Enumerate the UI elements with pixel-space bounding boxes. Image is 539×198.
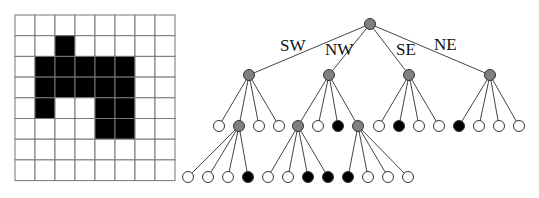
tree-edge [228,126,239,177]
tree-node-white [214,121,225,132]
label-se: SE [396,40,416,59]
tree-node-white [474,121,485,132]
tree-edge [479,75,490,126]
tree-edges [188,24,519,177]
label-nw: NW [325,40,354,59]
tree-node-black [333,121,344,132]
label-sw: SW [280,36,306,55]
tree-node-white [434,121,445,132]
tree-node-white [363,172,374,183]
tree-node-white [494,121,505,132]
tree-edge [318,75,329,126]
tree-node-black [343,172,354,183]
tree-node-black [303,172,314,183]
tree-node-gray [324,70,335,81]
tree-edge [188,126,239,177]
tree-node-white [514,121,525,132]
tree-node-gray [244,70,255,81]
tree-node-white [403,172,414,183]
tree-edge [298,75,329,126]
tree-node-white [203,172,214,183]
tree-node-black [243,172,254,183]
tree-edge [239,126,248,177]
tree-edge [208,126,239,177]
tree-edge [459,75,490,126]
tree-node-black [394,121,405,132]
tree-node-white [313,121,324,132]
tree-node-gray [404,70,415,81]
tree-node-white [254,121,265,132]
tree-node-gray [485,70,496,81]
tree-node-white [183,172,194,183]
tree-node-black [454,121,465,132]
tree-node-white [263,172,274,183]
tree-node-gray [234,121,245,132]
tree-node-white [283,172,294,183]
tree-node-white [374,121,385,132]
tree-node-gray [365,19,376,30]
quadtree-diagram: SW NW SE NE [0,0,539,198]
tree-node-black [323,172,334,183]
label-ne: NE [434,35,457,54]
tree-node-gray [293,121,304,132]
tree-node-white [414,121,425,132]
tree-edge [348,126,358,177]
tree-node-white [223,172,234,183]
tree-node-gray [353,121,364,132]
tree-node-white [274,121,285,132]
tree-edge [370,24,490,75]
quadrant-labels: SW NW SE NE [280,35,457,59]
tree-node-white [383,172,394,183]
